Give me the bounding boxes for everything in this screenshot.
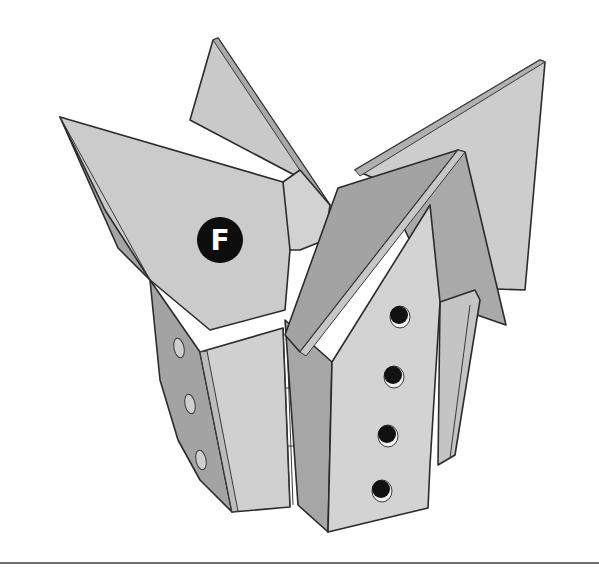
bottom-rule — [0, 562, 599, 564]
entrance-hole-1 — [390, 306, 410, 328]
callout-label: F — [210, 224, 229, 257]
entrance-hole-2 — [384, 366, 404, 388]
callout-badge: F — [197, 217, 243, 263]
right-tower-side-wall — [438, 290, 480, 465]
entrance-hole-4 — [372, 480, 392, 502]
birdhouse-illustration: F — [0, 0, 599, 578]
entrance-hole-3 — [378, 425, 398, 447]
